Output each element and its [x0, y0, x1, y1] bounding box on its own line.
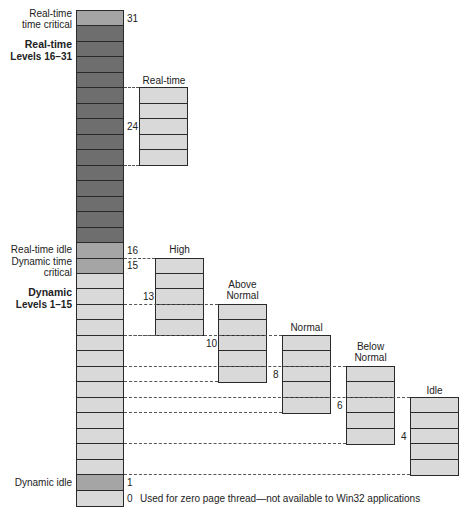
priority-level-14	[76, 273, 124, 290]
level-connector-dash	[124, 304, 218, 305]
priority-level-27	[76, 72, 124, 89]
class-level-cell	[218, 319, 267, 336]
priority-level-8	[76, 366, 124, 383]
class-level-cell	[139, 87, 188, 104]
class-level-cell	[346, 428, 395, 445]
title-line: Normal	[218, 290, 267, 301]
label-line: critical	[11, 267, 72, 278]
label-realtime-idle: Real-time idle	[11, 244, 72, 255]
priority-level-4	[76, 428, 124, 445]
heading-realtime: Real-time	[25, 39, 72, 50]
class-level-cell	[155, 273, 204, 290]
level-connector-dash	[124, 258, 155, 259]
class-level-cell	[139, 134, 188, 151]
class-level-cell	[139, 103, 188, 120]
priority-level-28	[76, 56, 124, 73]
title-line: Normal	[346, 352, 395, 363]
class-title-realtime: Real-time	[139, 75, 189, 86]
level-number-4: 4	[401, 431, 407, 442]
class-level-cell	[155, 288, 204, 305]
class-title-idle: Idle	[410, 385, 459, 396]
priority-level-17	[76, 227, 124, 244]
title-line: Below	[346, 341, 395, 352]
priority-level-3	[76, 443, 124, 460]
class-level-cell	[155, 304, 204, 321]
priority-level-23	[76, 134, 124, 151]
class-title-high: High	[155, 244, 204, 255]
level-number-1: 1	[127, 477, 133, 488]
priority-level-16	[76, 242, 124, 259]
priority-level-1	[76, 474, 124, 491]
class-level-cell	[155, 319, 204, 336]
class-level-cell	[139, 149, 188, 166]
level-connector-dash	[124, 165, 139, 166]
class-level-cell	[346, 366, 395, 383]
class-level-cell	[346, 412, 395, 429]
priority-level-19	[76, 196, 124, 213]
class-title-below-normal: Below Normal	[346, 341, 395, 363]
class-level-cell	[282, 335, 331, 352]
level-number-24: 24	[127, 121, 138, 132]
class-level-cell	[139, 118, 188, 135]
class-level-cell	[218, 335, 267, 352]
priority-level-12	[76, 304, 124, 321]
level-number-0: 0	[127, 493, 133, 504]
level-connector-dash	[124, 381, 218, 382]
heading-dynamic: Dynamic	[28, 287, 72, 298]
class-level-cell	[346, 381, 395, 398]
priority-level-13	[76, 288, 124, 305]
class-level-cell	[282, 397, 331, 414]
priority-level-22	[76, 149, 124, 166]
class-level-cell	[282, 381, 331, 398]
level-number-10: 10	[206, 338, 217, 349]
priority-level-10	[76, 335, 124, 352]
class-title-normal: Normal	[282, 322, 331, 333]
priority-level-26	[76, 87, 124, 104]
level-connector-dash	[124, 412, 282, 413]
priority-level-18	[76, 211, 124, 228]
level-connector-dash	[124, 366, 346, 367]
level-number-8: 8	[273, 369, 279, 380]
class-level-cell	[410, 459, 459, 476]
priority-level-31	[76, 10, 124, 27]
level-number-16: 16	[127, 245, 138, 256]
level-number-15: 15	[127, 260, 138, 271]
priority-level-29	[76, 41, 124, 58]
priority-levels-diagram: Real-time time critical Real-time Levels…	[0, 0, 474, 520]
label-line: time critical	[22, 19, 72, 30]
label-realtime-time-critical: Real-time time critical	[22, 8, 72, 30]
priority-level-0	[76, 490, 124, 507]
level-connector-dash	[124, 87, 139, 88]
title-line: Above	[218, 279, 267, 290]
priority-level-9	[76, 350, 124, 367]
class-level-cell	[282, 350, 331, 367]
priority-level-21	[76, 165, 124, 182]
class-level-cell	[410, 443, 459, 460]
class-level-cell	[218, 350, 267, 367]
class-level-cell	[346, 397, 395, 414]
heading-dynamic-levels: Levels 1–15	[16, 299, 72, 310]
level-connector-dash	[124, 474, 410, 475]
class-level-cell	[410, 428, 459, 445]
priority-level-7	[76, 381, 124, 398]
level-connector-dash	[124, 443, 346, 444]
priority-level-15	[76, 258, 124, 275]
level-number-6: 6	[337, 400, 343, 411]
heading-realtime-levels: Levels 16–31	[10, 51, 72, 62]
label-dynamic-time-critical: Dynamic time critical	[11, 256, 72, 278]
label-line: Dynamic time	[11, 256, 72, 267]
priority-level-20	[76, 180, 124, 197]
class-level-cell	[410, 412, 459, 429]
priority-level-11	[76, 319, 124, 336]
zero-page-thread-note: Used for zero page thread—not available …	[140, 493, 420, 504]
priority-level-30	[76, 25, 124, 42]
priority-level-25	[76, 103, 124, 120]
class-level-cell	[282, 366, 331, 383]
level-number-13: 13	[143, 291, 154, 302]
priority-level-2	[76, 459, 124, 476]
class-level-cell	[218, 304, 267, 321]
priority-level-5	[76, 412, 124, 429]
level-number-31: 31	[127, 13, 138, 24]
level-connector-dash	[124, 335, 282, 336]
level-connector-dash	[124, 397, 410, 398]
